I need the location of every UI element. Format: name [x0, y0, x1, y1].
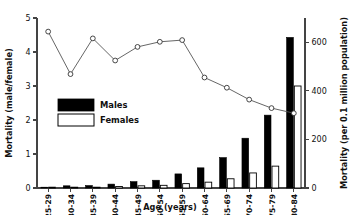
- right-tick-label: 600: [312, 38, 327, 47]
- legend-label-females: Females: [100, 115, 139, 125]
- x-tick-label: 45-49: [134, 194, 143, 215]
- x-tick-label: 65-69: [223, 194, 232, 215]
- chart-legend: Males Females: [58, 99, 139, 126]
- bar-male: [153, 180, 160, 188]
- ratio-data-point: [46, 29, 51, 34]
- bar-female: [116, 187, 123, 188]
- bar-female: [49, 187, 56, 188]
- bar-male: [86, 186, 93, 188]
- bar-male: [264, 115, 271, 188]
- ratio-data-point: [202, 75, 207, 80]
- bar-female: [205, 182, 212, 188]
- ratio-data-point: [269, 106, 274, 111]
- left-tick-label: 4: [25, 48, 30, 57]
- x-tick-label: 80-84: [290, 194, 299, 215]
- ratio-data-point: [135, 45, 140, 50]
- right-tick-label: 200: [312, 135, 327, 144]
- right-axis-tick-labels: 0200400600: [312, 38, 327, 193]
- legend-swatch-females: [58, 114, 94, 126]
- left-tick-label: 0: [25, 184, 30, 193]
- bars-group: [41, 37, 301, 188]
- ratio-data-point: [68, 72, 73, 77]
- bar-female: [93, 187, 100, 188]
- bar-male: [242, 138, 249, 188]
- legend-label-males: Males: [100, 100, 128, 110]
- bar-male: [108, 184, 115, 188]
- left-tick-label: 5: [25, 14, 30, 23]
- x-tick-label: 40-44: [111, 194, 120, 215]
- bar-female: [227, 179, 234, 188]
- x-tick-label: 60-64: [201, 194, 210, 215]
- x-tick-label: 30-34: [67, 194, 76, 215]
- ratio-data-point: [291, 111, 296, 116]
- bar-female: [138, 186, 145, 188]
- x-axis-title: Age (years): [143, 202, 197, 212]
- x-tick-label: 70-74: [245, 194, 254, 215]
- ratio-data-point: [113, 58, 118, 63]
- ratio-data-point: [180, 38, 185, 43]
- left-axis-title: Mortality (male/female): [4, 48, 14, 158]
- bar-male: [63, 186, 70, 188]
- bar-male: [130, 182, 137, 188]
- bar-female: [160, 185, 167, 188]
- x-tick-label: 75-79: [268, 194, 277, 215]
- ratio-data-point: [247, 97, 252, 102]
- x-tick-label: 35-39: [89, 194, 98, 215]
- bar-male: [197, 168, 204, 188]
- chart-figure: 012345 0200400600 25-2930-3435-3940-4445…: [0, 0, 357, 215]
- left-tick-label: 2: [25, 116, 30, 125]
- bar-female: [183, 184, 190, 188]
- mortality-dual-axis-chart: 012345 0200400600 25-2930-3435-3940-4445…: [0, 0, 357, 215]
- right-tick-label: 0: [312, 184, 317, 193]
- bar-male: [175, 174, 182, 188]
- left-tick-label: 3: [25, 82, 30, 91]
- right-tick-label: 400: [312, 87, 327, 96]
- bar-male: [220, 158, 227, 188]
- ratio-data-point: [90, 36, 95, 41]
- legend-swatch-males: [58, 99, 94, 111]
- ratio-data-point: [157, 39, 162, 44]
- right-axis-title: Mortality (per 0.1 million population): [339, 17, 349, 189]
- ratio-data-point: [224, 85, 229, 90]
- x-tick-label: 25-29: [44, 194, 53, 215]
- left-tick-label: 1: [25, 150, 30, 159]
- bar-male: [41, 187, 48, 188]
- bar-female: [250, 173, 257, 188]
- bar-female: [294, 86, 301, 188]
- bar-female: [71, 187, 78, 188]
- left-axis-tick-labels: 012345: [25, 14, 30, 193]
- bar-female: [272, 166, 279, 188]
